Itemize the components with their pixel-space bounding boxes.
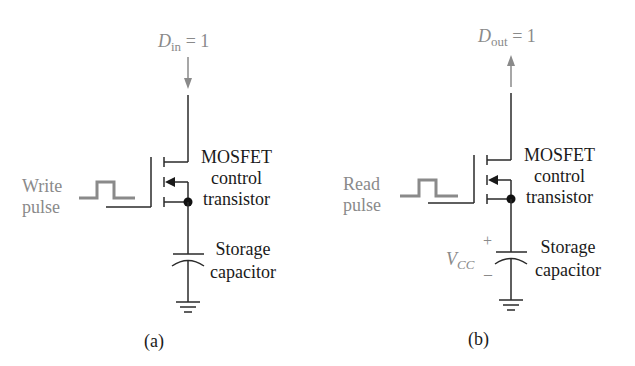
pulse-label-line1: Read xyxy=(343,174,381,195)
panel-a-circuit xyxy=(79,57,204,312)
storage-capacitor-icon xyxy=(172,254,204,302)
transistor-label-line3: transistor xyxy=(201,189,272,210)
vcc-label: VCC xyxy=(446,250,474,268)
capacitor-label-line2: capacitor xyxy=(535,259,601,282)
transistor-label-line1: MOSFET xyxy=(524,145,595,166)
source-arrow-icon xyxy=(165,177,175,187)
ground-icon xyxy=(176,302,200,312)
data-subscript: in xyxy=(171,39,181,54)
data-symbol: D xyxy=(158,31,171,51)
caption-b: (b) xyxy=(468,330,489,348)
vcc-subscript: CC xyxy=(457,257,474,272)
read-pulse-icon xyxy=(400,180,458,196)
transistor-label-line3: transistor xyxy=(524,187,595,208)
data-out-label: Dout = 1 xyxy=(478,27,536,45)
read-pulse-label: Read pulse xyxy=(343,174,381,216)
source-arrow-icon xyxy=(488,175,498,185)
capacitor-label-line1: Storage xyxy=(210,238,276,261)
storage-capacitor-icon xyxy=(495,252,527,300)
transistor-label-line2: control xyxy=(201,168,272,189)
data-value: = 1 xyxy=(512,26,536,46)
capacitor-label: Storage capacitor xyxy=(535,236,601,282)
transistor-label: MOSFET control transistor xyxy=(524,145,595,208)
write-pulse-icon xyxy=(79,182,135,198)
vcc-minus-sign: – xyxy=(484,266,492,282)
transistor-label-line2: control xyxy=(524,166,595,187)
capacitor-label-line2: capacitor xyxy=(210,261,276,284)
capacitor-label-line1: Storage xyxy=(535,236,601,259)
ground-icon xyxy=(499,300,523,310)
data-subscript: out xyxy=(491,34,508,49)
vcc-symbol: V xyxy=(446,249,457,269)
transistor-label: MOSFET control transistor xyxy=(201,147,272,210)
data-in-arrow-icon xyxy=(184,57,192,89)
data-symbol: D xyxy=(478,26,491,46)
write-pulse-label: Write pulse xyxy=(22,176,62,218)
data-out-arrow-icon xyxy=(507,55,515,87)
data-in-label: Din = 1 xyxy=(158,32,209,50)
pulse-label-line2: pulse xyxy=(343,195,381,216)
data-value: = 1 xyxy=(186,31,210,51)
caption-a: (a) xyxy=(144,332,164,350)
transistor-label-line1: MOSFET xyxy=(201,147,272,168)
pulse-label-line1: Write xyxy=(22,176,62,197)
pulse-label-line2: pulse xyxy=(22,197,62,218)
vcc-plus-sign: + xyxy=(483,233,492,249)
capacitor-label: Storage capacitor xyxy=(210,238,276,284)
